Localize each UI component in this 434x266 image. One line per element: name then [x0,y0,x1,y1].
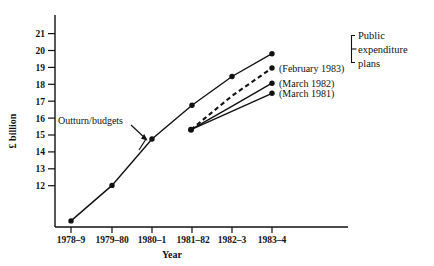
y-tick-label-12: 12 [36,181,46,191]
series-march-1981 [188,91,275,133]
annotation-outturn-budgets: Outturn/budgets [58,115,123,126]
x-axis-ticks [71,227,272,233]
x-axis-title: Year [162,249,183,260]
y-tick-label-15: 15 [36,130,46,140]
y-tick-label-16: 16 [36,114,46,124]
y-tick-label-14: 14 [36,147,46,157]
x-tick-label-1981-82: 1981–82 [176,235,210,245]
data-point [149,136,154,141]
y-tick-label-21: 21 [36,29,46,39]
y-axis-title: £ billion [7,113,18,148]
group-label-line-3: plans [358,58,380,69]
y-axis-ticks [48,34,55,186]
x-tick-label-1983-4: 1983–4 [258,235,287,245]
data-point [68,218,73,223]
chart-container: 21 20 19 18 17 16 15 14 13 12 £ billion … [0,0,434,266]
x-axis-tick-labels: 1978–9 1979–80 1980–1 1981–82 1982–3 198… [57,235,287,245]
data-point [109,183,114,188]
data-point [229,74,234,79]
x-tick-label-1979-80: 1979–80 [95,235,129,245]
series-label-february-1983: (February 1983) [279,63,344,75]
series-label-march-1981: (March 1981) [279,88,334,100]
y-tick-label-18: 18 [36,80,46,90]
data-point [269,81,274,86]
series-line-outturn-budgets [71,54,272,221]
y-tick-label-17: 17 [36,97,46,107]
x-tick-label-1982-3: 1982–3 [218,235,247,245]
x-tick-label-1978-9: 1978–9 [57,235,86,245]
y-tick-label-20: 20 [36,46,46,56]
y-axis-tick-labels: 21 20 19 18 17 16 15 14 13 12 [36,29,46,191]
data-point [189,103,194,108]
y-tick-label-19: 19 [36,63,46,73]
group-label-line-1: Public [358,30,385,41]
series-outturn-budgets [68,51,274,224]
series-march-1982 [191,81,275,130]
data-point [269,91,274,96]
group-label-line-2: expenditure [358,44,408,55]
line-chart: 21 20 19 18 17 16 15 14 13 12 £ billion … [0,0,434,266]
group-bracket [352,36,357,63]
data-point [269,65,274,70]
leader-line-tail [139,139,146,150]
data-point [269,51,274,56]
series-line-march-1982 [191,83,272,130]
series-line-march-1981 [191,93,272,129]
data-point-branch-origin [188,127,194,133]
x-tick-label-1980-1: 1980–1 [138,235,167,245]
y-tick-label-13: 13 [36,164,46,174]
